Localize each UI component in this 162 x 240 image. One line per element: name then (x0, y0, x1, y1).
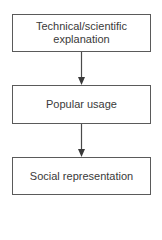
node-label: Popular usage (46, 98, 117, 111)
arrow-1-to-2 (78, 52, 85, 85)
node-popular-usage: Popular usage (12, 85, 151, 124)
node-social-representation: Social representation (12, 157, 151, 195)
arrowhead-icon (78, 77, 85, 85)
node-label: Social representation (30, 170, 133, 183)
arrowhead-icon (78, 149, 85, 157)
arrow-2-to-3 (78, 124, 85, 157)
